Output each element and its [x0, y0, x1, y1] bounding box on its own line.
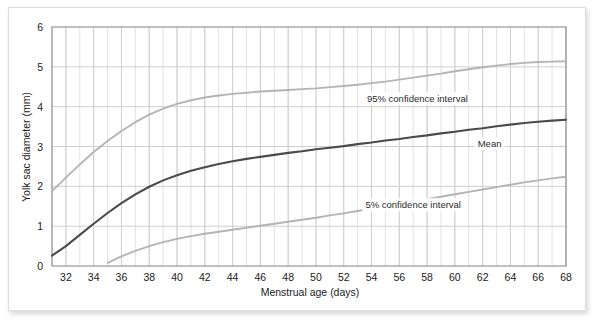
x-tick-label: 42 [199, 271, 211, 283]
y-tick-label: 6 [37, 21, 43, 33]
y-tick-label: 0 [37, 260, 43, 272]
x-tick-label: 58 [421, 271, 433, 283]
x-tick-label: 52 [338, 271, 350, 283]
x-tick-label: 36 [116, 271, 128, 283]
x-tick-label: 56 [393, 271, 405, 283]
x-axis-ticks: 32343638404244464850525456586062646668 [60, 271, 572, 283]
y-tick-label: 2 [37, 180, 43, 192]
figure-container: 32343638404244464850525456586062646668 0… [0, 0, 596, 328]
series-line [108, 177, 566, 263]
x-axis-title: Menstrual age (days) [261, 286, 360, 298]
y-tick-label: 1 [37, 220, 43, 232]
x-tick-label: 32 [60, 271, 72, 283]
x-tick-label: 38 [143, 271, 155, 283]
x-tick-label: 68 [560, 271, 572, 283]
x-tick-label: 54 [366, 271, 378, 283]
series-annotation: 5% confidence interval [365, 199, 461, 210]
x-tick-label: 62 [477, 271, 489, 283]
x-tick-label: 40 [171, 271, 183, 283]
series-annotation: Mean [478, 138, 502, 149]
series-annotation: 95% confidence interval [367, 93, 468, 104]
data-series-group [52, 61, 566, 263]
y-tick-label: 4 [37, 101, 43, 113]
x-tick-label: 50 [310, 271, 322, 283]
y-axis-ticks: 0123456 [37, 21, 43, 272]
x-tick-label: 48 [282, 271, 294, 283]
y-axis-title: Yolk sac diameter (mm) [20, 92, 32, 202]
chart-plot: 32343638404244464850525456586062646668 0… [0, 0, 596, 328]
y-tick-label: 3 [37, 141, 43, 153]
series-line [52, 61, 566, 191]
x-tick-label: 34 [88, 271, 100, 283]
x-tick-label: 44 [227, 271, 239, 283]
series-annotations: 95% confidence intervalMean5% confidence… [362, 92, 504, 211]
x-tick-label: 66 [532, 271, 544, 283]
x-tick-label: 46 [255, 271, 267, 283]
y-tick-label: 5 [37, 61, 43, 73]
x-tick-label: 64 [505, 271, 517, 283]
x-tick-label: 60 [449, 271, 461, 283]
